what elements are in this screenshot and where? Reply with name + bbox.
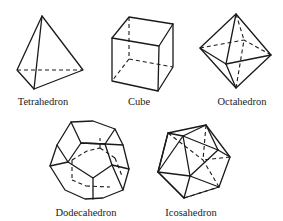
tetrahedron-figure <box>17 16 83 89</box>
dodecahedron-figure <box>50 121 129 199</box>
platonic-solids-diagram: Tetrahedron Cube Octahedron <box>0 0 283 221</box>
dodecahedron-label: Dodecahedron <box>55 207 117 218</box>
tetrahedron-label: Tetrahedron <box>18 96 69 107</box>
cube-label: Cube <box>128 96 151 107</box>
octahedron-figure <box>200 14 271 88</box>
icosahedron-label: Icosahedron <box>165 207 217 218</box>
octahedron-label: Octahedron <box>218 96 268 107</box>
icosahedron-figure <box>158 125 230 198</box>
cube-figure <box>112 17 173 91</box>
